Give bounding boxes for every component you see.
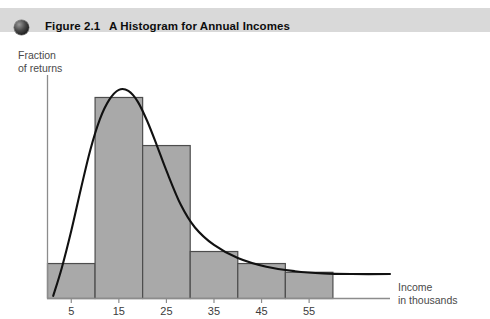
- x-axis-tick-label: 35: [199, 305, 229, 317]
- y-axis-title-line1: Fraction: [18, 49, 62, 62]
- y-axis-title: Fraction of returns: [18, 49, 62, 74]
- histogram-bar: [285, 272, 333, 298]
- x-axis-tick-label: 25: [151, 305, 181, 317]
- x-axis-title: Income in thousands: [398, 281, 458, 306]
- histogram-chart: Fraction of returns Income in thousands …: [0, 32, 490, 319]
- histogram-bars: [48, 97, 333, 298]
- x-axis-tick-label: 15: [104, 305, 134, 317]
- x-axis-ticks: [71, 299, 309, 304]
- figure-title-label: A Histogram for Annual Incomes: [109, 20, 290, 32]
- histogram-bar: [190, 252, 238, 299]
- figure-number-label: Figure 2.1: [45, 20, 100, 32]
- x-axis-tick-label: 45: [247, 305, 277, 317]
- x-axis-title-line2: in thousands: [398, 294, 458, 307]
- figure-caption-band: Figure 2.1 A Histogram for Annual Income…: [0, 8, 490, 32]
- x-axis-tick-label: 55: [294, 305, 324, 317]
- x-axis-tick-label: 5: [56, 305, 86, 317]
- x-axis-title-line1: Income: [398, 281, 458, 294]
- histogram-svg: [0, 32, 490, 319]
- y-axis-title-line2: of returns: [18, 62, 62, 75]
- histogram-bar: [95, 97, 143, 298]
